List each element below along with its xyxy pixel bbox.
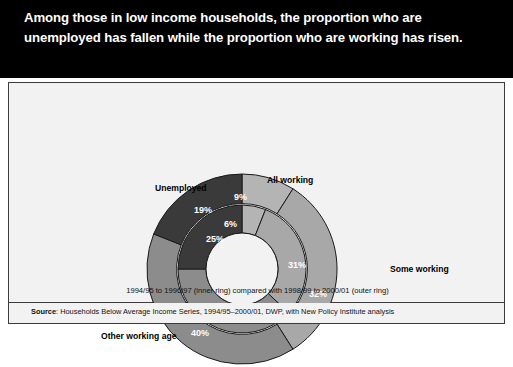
category-label-all-working: All working bbox=[267, 175, 313, 185]
outer-value-other-working-age: 40% bbox=[191, 328, 209, 338]
source-detail: : Households Below Average Income Series… bbox=[56, 307, 394, 316]
chart-panel: 9% 32% 40% 19% 6% 31% 38% 25% Unemployed… bbox=[8, 82, 505, 303]
source-note: Source: Households Below Average Income … bbox=[31, 307, 394, 316]
outer-value-unemployed: 19% bbox=[194, 205, 212, 215]
category-label-unemployed: Unemployed bbox=[155, 183, 207, 193]
category-label-some-working: Some working bbox=[390, 264, 449, 274]
title-banner: Among those in low income households, th… bbox=[0, 0, 513, 78]
inner-value-unemployed: 25% bbox=[206, 234, 224, 244]
chart-caption: 1994/95 to 1996/97 (inner ring) compared… bbox=[9, 286, 506, 295]
source-band: Source: Households Below Average Income … bbox=[8, 303, 505, 324]
source-label: Source bbox=[31, 307, 56, 316]
page-title: Among those in low income households, th… bbox=[24, 8, 496, 47]
inner-value-all-working: 6% bbox=[224, 219, 237, 229]
outer-value-all-working: 9% bbox=[234, 192, 247, 202]
inner-value-some-working: 31% bbox=[288, 260, 306, 270]
category-label-other-working-age: Other working age bbox=[101, 331, 176, 341]
